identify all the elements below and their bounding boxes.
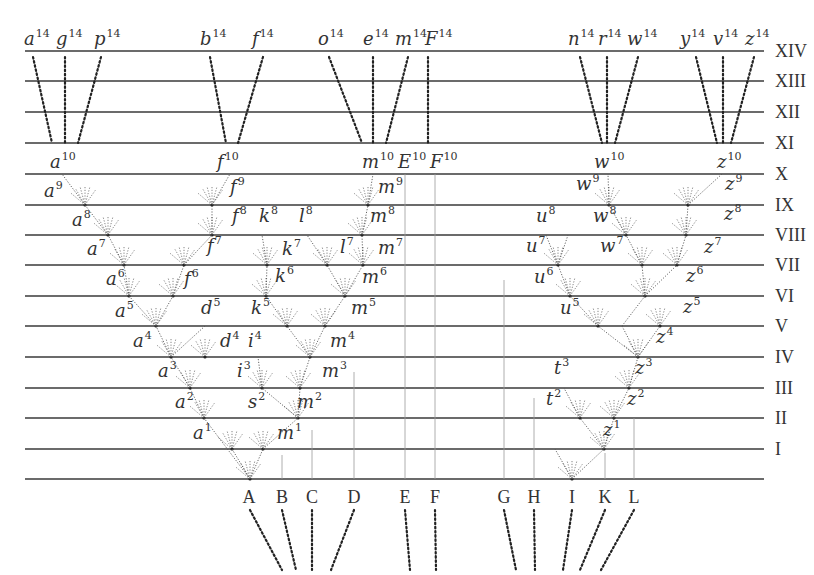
tree-branch <box>62 174 85 205</box>
variation-ray <box>605 402 614 418</box>
generation-label: XII <box>775 102 800 122</box>
variation-ray <box>609 188 614 205</box>
variation-ray <box>203 219 212 235</box>
variation-ray <box>636 280 645 296</box>
tree-branch <box>598 326 638 357</box>
species-label-l8: l8 <box>299 204 313 226</box>
species-label-f8: f8 <box>230 204 247 226</box>
dotted-connector <box>405 510 410 570</box>
species-label-a6: a6 <box>106 267 125 289</box>
species-label-m3: m3 <box>322 359 347 381</box>
species-label-a2: a2 <box>175 390 194 412</box>
species-label-a8: a8 <box>72 208 91 230</box>
variation-ray <box>99 219 108 235</box>
variation-ray <box>212 190 222 205</box>
variation-ray <box>258 432 263 449</box>
variation-ray <box>549 249 558 265</box>
species-label-w14: w14 <box>627 27 657 49</box>
dotted-connector <box>210 57 226 143</box>
species-label-u8: u8 <box>536 204 556 226</box>
variation-ray <box>600 189 609 205</box>
variation-ray <box>162 341 171 357</box>
species-label-d4: d4 <box>220 329 240 351</box>
tree-branch <box>645 265 677 296</box>
generation-label: III <box>775 378 793 398</box>
variation-ray <box>660 311 670 326</box>
variation-ray <box>108 218 113 235</box>
variation-ray <box>190 373 200 388</box>
variation-ray <box>642 250 652 265</box>
variation-ray <box>681 218 686 235</box>
dotted-connector <box>534 510 535 570</box>
variation-ray <box>683 188 688 205</box>
species-label-t2: t2 <box>546 387 561 409</box>
variation-ray <box>205 342 215 357</box>
dotted-connector <box>33 57 52 143</box>
species-label-o14: o14 <box>318 27 344 49</box>
variation-ray <box>257 280 266 296</box>
variation-ray <box>212 218 217 235</box>
species-label-d5: d5 <box>201 296 221 318</box>
variation-ray <box>325 309 330 326</box>
species-label-z6: z6 <box>685 264 703 286</box>
species-label-w9: w9 <box>576 172 599 194</box>
species-label-g14: g14 <box>56 27 83 49</box>
branch-node <box>230 447 233 450</box>
generation-labels: XIVXIIIXIIXIXIXVIIIVIIVIVIVIIIIII <box>775 41 807 459</box>
ancestral-species-A: A <box>243 487 256 507</box>
generation-label: XI <box>775 133 794 153</box>
generation-label: VII <box>775 255 800 275</box>
species-label-w10: w10 <box>594 150 624 172</box>
variation-ray <box>340 279 345 296</box>
species-label-F10: F10 <box>429 150 458 172</box>
dotted-connector <box>282 510 296 570</box>
species-label-n14: n14 <box>568 27 595 49</box>
variation-ray <box>331 284 345 296</box>
divergence-diagram: a14g14p14b14f14o14e14m14F14n14r14w14y14v… <box>0 0 814 575</box>
variation-ray <box>600 406 614 418</box>
species-label-b14: b14 <box>200 27 227 49</box>
variation-ray <box>85 190 95 205</box>
species-label-a3: a3 <box>158 359 177 381</box>
species-label-z7: z7 <box>703 235 721 257</box>
variation-ray <box>626 218 631 235</box>
tree-branch <box>368 174 373 205</box>
variation-ray <box>267 248 272 265</box>
generation-label: VI <box>775 286 794 306</box>
dotted-connector <box>250 510 282 570</box>
tree-branch <box>307 235 327 265</box>
variation-ray <box>301 341 310 357</box>
variation-ray <box>179 248 184 265</box>
variation-ray <box>291 372 300 388</box>
variation-ray <box>363 248 368 265</box>
tree-branch <box>262 388 298 418</box>
variation-ray <box>200 340 205 357</box>
variation-ray <box>223 433 232 449</box>
variation-ray <box>354 193 368 205</box>
variation-ray <box>686 220 696 235</box>
variation-ray <box>170 253 184 265</box>
variation-ray <box>204 401 209 418</box>
tree-diagram-canvas: a14g14p14b14f14o14e14m14F14n14r14w14y14v… <box>0 0 814 575</box>
branch-node <box>203 355 206 358</box>
variation-ray <box>631 284 645 296</box>
species-label-f14: f14 <box>250 27 274 49</box>
variation-ray <box>156 311 166 326</box>
species-label-a9: a9 <box>44 179 63 201</box>
species-label-k5: k5 <box>251 296 270 318</box>
variation-ray <box>357 218 362 235</box>
variation-ray <box>642 248 647 265</box>
variation-ray <box>120 280 129 296</box>
variation-ray <box>624 371 629 388</box>
species-label-m14: m14 <box>395 27 427 49</box>
ancestral-species-E: E <box>400 487 411 507</box>
species-label-F14: F14 <box>424 27 453 49</box>
variation-ray <box>677 250 687 265</box>
variation-ray <box>584 314 598 326</box>
species-label-u7: u7 <box>526 234 546 256</box>
tree-branch <box>173 265 184 296</box>
variation-ray <box>558 467 572 479</box>
species-label-s2: s2 <box>248 390 265 412</box>
species-label-m1: m1 <box>277 421 302 443</box>
tree-branch <box>156 296 173 326</box>
